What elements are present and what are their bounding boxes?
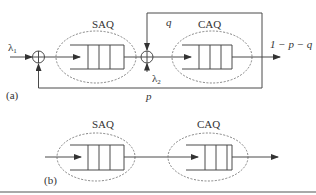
junction-1-icon [33, 51, 45, 63]
part-b-label: (b) [44, 174, 57, 187]
exit-probability-label: 1 − p − q [270, 38, 313, 50]
caq-label-b: CAQ [197, 118, 220, 130]
saq-label-b: SAQ [92, 118, 114, 130]
q-label: q [166, 16, 172, 28]
junction-2-icon [141, 51, 153, 63]
part-a-label: (a) [6, 89, 19, 102]
saq-label-a: SAQ [92, 18, 114, 30]
caq-label-a: CAQ [198, 18, 221, 30]
lambda2-label: λ2 [152, 72, 161, 86]
p-label: p [145, 90, 152, 102]
part-a: λ1 SAQ λ2 [6, 13, 313, 102]
part-b: SAQ CAQ (b) [44, 118, 278, 187]
lambda1-label: λ1 [8, 41, 17, 55]
queueing-diagram: λ1 SAQ λ2 [0, 0, 316, 195]
